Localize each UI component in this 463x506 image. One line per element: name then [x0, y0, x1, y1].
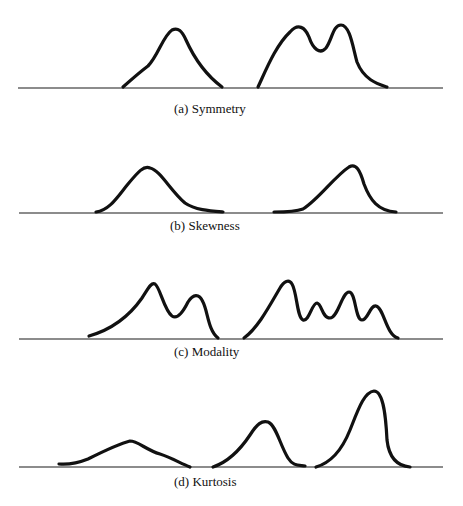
caption-modality: (c) Modality: [174, 344, 240, 359]
caption-skewness: (b) Skewness: [170, 218, 240, 233]
caption-symmetry: (a) Symmetry: [174, 101, 246, 116]
bimodal-curve: [89, 284, 218, 338]
panel-skewness: (b) Skewness: [19, 166, 443, 233]
caption-kurtosis: (d) Kurtosis: [174, 474, 236, 489]
panel-symmetry: (a) Symmetry: [18, 25, 443, 116]
right-skewed-curve: [96, 167, 223, 212]
left-skewed-curve: [274, 166, 396, 212]
panel-kurtosis: (d) Kurtosis: [19, 391, 443, 489]
symmetric-bimodal-curve: [258, 25, 387, 87]
platykurtic-curve: [59, 441, 190, 467]
multimodal-curve: [244, 281, 398, 338]
leptokurtic-curve: [316, 391, 410, 467]
panel-modality: (c) Modality: [19, 281, 443, 359]
symmetric-unimodal-curve: [123, 29, 222, 87]
mesokurtic-curve: [213, 422, 305, 467]
distribution-shapes-diagram: (a) Symmetry (b) Skewness (c) Modality (…: [0, 0, 463, 506]
